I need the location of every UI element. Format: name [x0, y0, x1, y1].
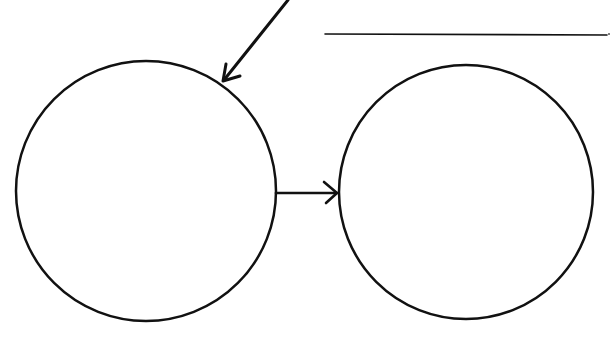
left-circle: [16, 61, 276, 321]
connector-arrow: [276, 182, 337, 203]
answer-line: [325, 34, 607, 35]
incoming-arrow: [223, 0, 288, 81]
diagram-canvas: [0, 0, 612, 338]
right-circle: [339, 65, 593, 319]
line-end-dot: [608, 33, 610, 35]
